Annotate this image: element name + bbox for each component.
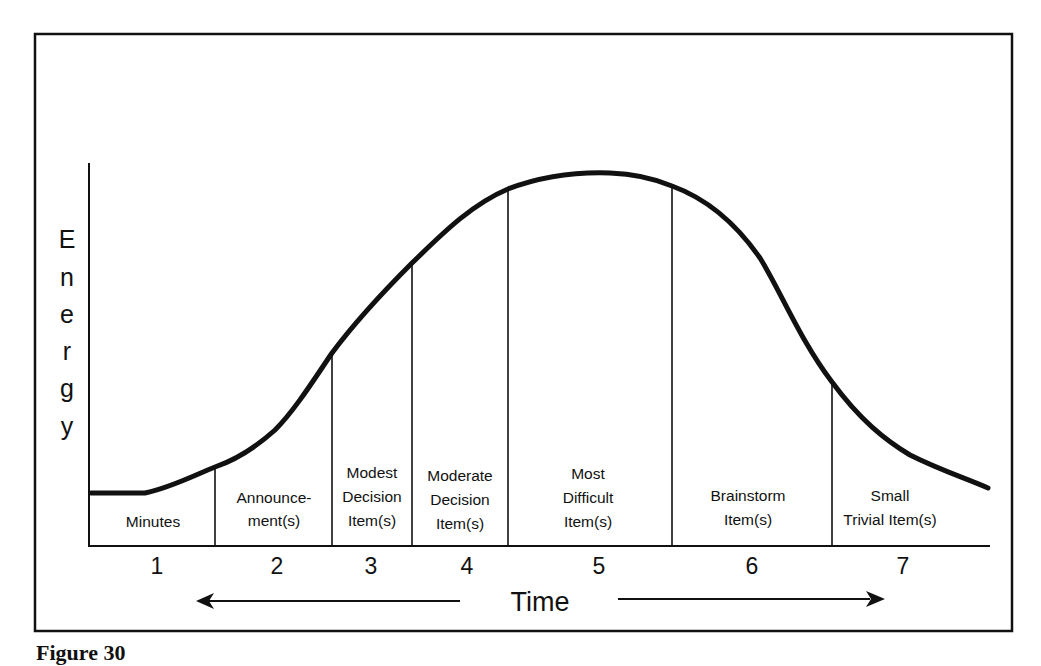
segment-label-4-line3: Item(s) [436,515,484,532]
y-label-letter: e [60,300,74,328]
segment-number-4: 4 [461,553,474,579]
segment-number-3: 3 [365,553,378,579]
segment-label-7-line2: Trivial Item(s) [843,511,936,528]
segment-number-1: 1 [151,553,164,579]
segment-label-7-line1: Small [871,487,910,504]
x-axis-label: Time [511,587,570,617]
figure-frame [35,34,1012,631]
segment-label-5-line2: Difficult [563,489,614,506]
segment-labels: Minutes Announce- ment(s) Modest Decisio… [126,464,937,532]
segment-label-3-line3: Item(s) [348,512,396,529]
segment-number-2: 2 [271,553,284,579]
segment-label-4-line1: Moderate [427,467,492,484]
segment-label-5-line1: Most [571,465,605,482]
y-label-letter: y [61,412,74,440]
segment-label-5-line3: Item(s) [564,513,612,530]
segment-label-6-line1: Brainstorm [711,487,786,504]
segment-label-2-line2: ment(s) [248,512,301,529]
figure-caption: Figure 30 [36,640,125,666]
segment-label-1: Minutes [126,513,181,530]
segment-label-2-line1: Announce- [237,489,312,506]
segment-label-4-line2: Decision [430,491,489,508]
time-arrow-left [196,593,460,609]
segment-label-6-line2: Item(s) [724,511,772,528]
segment-number-7: 7 [897,553,910,579]
y-label-letter: g [60,374,74,402]
segment-number-5: 5 [593,553,606,579]
segment-number-6: 6 [746,553,759,579]
segment-numbers: 1 2 3 4 5 6 7 [151,553,910,579]
y-axis-label: E n e r g y [59,225,76,440]
y-label-letter: n [60,263,74,291]
time-arrow-right [618,591,885,607]
segment-label-3-line2: Decision [342,488,401,505]
y-label-letter: r [63,337,71,365]
energy-curve [91,173,988,493]
y-label-letter: E [59,225,76,253]
segment-label-3-line1: Modest [347,464,399,481]
